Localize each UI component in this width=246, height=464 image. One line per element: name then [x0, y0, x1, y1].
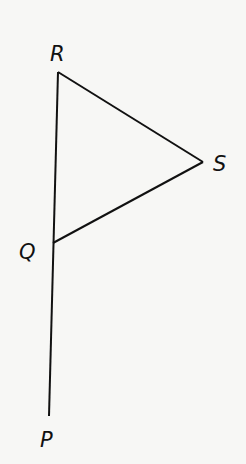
segment-SQ [53, 162, 203, 243]
label-Q: Q [19, 242, 36, 263]
triangle-figure [0, 0, 246, 464]
label-P: P [40, 430, 53, 451]
diagram-canvas: R S Q P [0, 0, 246, 464]
segment-RS [58, 72, 203, 162]
segment-RP [49, 72, 58, 416]
label-S: S [213, 154, 226, 175]
label-R: R [50, 44, 65, 65]
